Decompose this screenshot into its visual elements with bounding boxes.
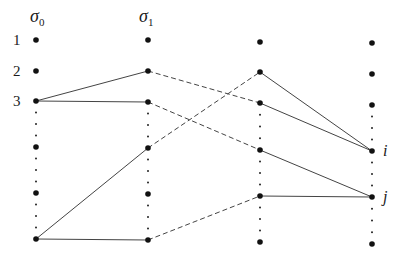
ellipsis-dot xyxy=(371,185,373,187)
solid-edge-9 xyxy=(260,103,372,151)
solid-edge-11 xyxy=(260,196,372,197)
node-c0-r5 xyxy=(33,236,39,242)
node-c2-r5 xyxy=(257,239,263,245)
node-c3-r3 xyxy=(369,148,375,154)
node-c2-r2 xyxy=(257,100,263,106)
dashed-edge-7 xyxy=(148,196,260,240)
node-c0-r0 xyxy=(33,37,39,43)
ellipsis-dot xyxy=(371,173,373,175)
ellipsis-dot xyxy=(259,137,261,139)
ellipsis-dot xyxy=(147,113,149,115)
ellipsis-dot xyxy=(259,114,261,116)
ellipsis-dot xyxy=(259,230,261,232)
node-c3-r0 xyxy=(369,40,375,46)
ellipsis-dot xyxy=(35,215,37,217)
layered-graph-diagram: σ0 σ1 1 2 3 i j xyxy=(0,0,405,260)
dashed-edge-6 xyxy=(148,72,260,148)
ellipsis-dot xyxy=(35,112,37,114)
ellipsis-dot xyxy=(259,184,261,186)
ellipsis-dot xyxy=(259,218,261,220)
ellipsis-dot xyxy=(147,228,149,230)
ellipsis-dot xyxy=(147,205,149,207)
ellipsis-dot xyxy=(259,161,261,163)
solid-edge-1 xyxy=(36,101,148,102)
node-c1-r4 xyxy=(145,191,151,197)
ellipsis-dot xyxy=(35,158,37,160)
node-c3-r2 xyxy=(369,102,375,108)
node-c2-r0 xyxy=(257,39,263,45)
dashed-edge-4 xyxy=(148,71,260,103)
ellipsis-dot xyxy=(35,204,37,206)
node-c0-r1 xyxy=(33,68,39,74)
solid-edge-10 xyxy=(260,150,372,197)
node-c3-r1 xyxy=(369,71,375,77)
node-c1-r0 xyxy=(145,37,151,43)
row-label-2: 2 xyxy=(13,63,21,79)
node-label-i: i xyxy=(383,142,387,159)
ellipsis-dot xyxy=(35,123,37,125)
ellipsis-dot xyxy=(371,139,373,141)
ellipsis-dot xyxy=(259,172,261,174)
node-c1-r2 xyxy=(145,99,151,105)
labels-layer: σ0 σ1 1 2 3 i j xyxy=(13,6,388,206)
ellipsis-dot xyxy=(147,182,149,184)
ellipsis-dot xyxy=(35,135,37,137)
ellipsis-dot xyxy=(147,136,149,138)
ellipsis-dot xyxy=(147,124,149,126)
node-c3-r4 xyxy=(369,194,375,200)
node-c0-r3 xyxy=(33,144,39,150)
ellipsis-dot xyxy=(35,169,37,171)
ellipsis-dot xyxy=(259,207,261,209)
column-label-sigma-1: σ1 xyxy=(139,6,153,28)
ellipsis-dot xyxy=(371,208,373,210)
ellipsis-dot xyxy=(371,116,373,118)
solid-edge-0 xyxy=(36,71,148,101)
row-label-1: 1 xyxy=(13,32,21,48)
node-c1-r5 xyxy=(145,237,151,243)
node-c1-r3 xyxy=(145,145,151,151)
node-c0-r2 xyxy=(33,98,39,104)
solid-edge-2 xyxy=(36,148,148,239)
column-label-sigma-0: σ0 xyxy=(30,6,45,28)
ellipsis-dot xyxy=(147,159,149,161)
ellipsis-dot xyxy=(259,126,261,128)
row-label-3: 3 xyxy=(13,93,21,109)
node-c1-r1 xyxy=(145,68,151,74)
node-c2-r1 xyxy=(257,69,263,75)
ellipsis-dot xyxy=(371,220,373,222)
solid-edge-3 xyxy=(36,239,148,240)
ellipsis-dot xyxy=(371,127,373,129)
node-c2-r3 xyxy=(257,147,263,153)
ellipsis-dot xyxy=(35,181,37,183)
ellipsis-dot xyxy=(147,170,149,172)
solid-edge-8 xyxy=(260,72,372,151)
ellipsis-dot xyxy=(147,216,149,218)
ellipsis-dot xyxy=(35,227,37,229)
ellipsis-dot xyxy=(371,231,373,233)
edges-layer xyxy=(36,71,372,240)
ellipsis-dot xyxy=(371,162,373,164)
dashed-edge-5 xyxy=(148,102,260,150)
nodes-layer xyxy=(33,37,375,247)
node-c2-r4 xyxy=(257,193,263,199)
node-label-j: j xyxy=(381,188,388,206)
node-c3-r5 xyxy=(369,241,375,247)
node-c0-r4 xyxy=(33,190,39,196)
